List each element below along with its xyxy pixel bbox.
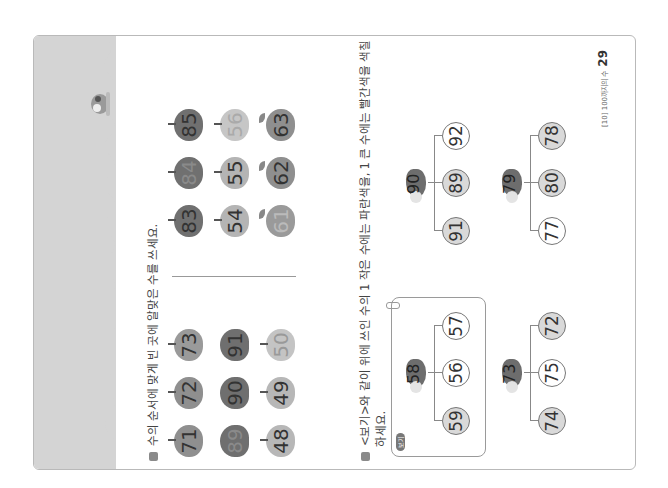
apple-cell: 50: [266, 329, 295, 361]
choice-circle[interactable]: 77: [538, 217, 566, 245]
apple-cell: 48: [266, 425, 295, 457]
choice-circle[interactable]: 74: [538, 407, 566, 435]
apple-cell: 85: [174, 109, 203, 141]
section2-instruction: <보기>와 같이 위에 쓰인 수의 1 작은 수에는 파란색을, 1 큰 수에는…: [356, 41, 372, 461]
choice-circle[interactable]: 91: [442, 217, 470, 245]
apple-cell: 49: [266, 377, 295, 409]
apple-cell: 72: [174, 377, 203, 409]
apple-cell: 71: [174, 425, 203, 457]
choice-circle[interactable]: 89: [442, 169, 470, 197]
apple-cell: 73: [174, 329, 203, 361]
section2-instruction-cont: 하세요.: [372, 411, 388, 447]
apple-cell: 63: [266, 109, 295, 141]
choice-circle[interactable]: 57: [442, 312, 470, 340]
page-number: 29: [596, 50, 610, 67]
bird-icon: 79: [500, 169, 524, 203]
apple-cell: 83: [174, 205, 203, 237]
bullet-icon: [361, 452, 370, 461]
example-badge: 보기: [396, 433, 405, 451]
choice-circle[interactable]: 72: [538, 312, 566, 340]
apple-cell: 89: [220, 425, 249, 457]
choice-circle[interactable]: 92: [442, 122, 470, 150]
apple-cell: 61: [266, 205, 295, 237]
choice-circle[interactable]: 59: [442, 407, 470, 435]
paperclip-icon: [386, 302, 400, 309]
apple-cell: 90: [220, 377, 249, 409]
bird-icon: 90: [404, 169, 428, 203]
bullet-icon: [149, 452, 158, 461]
choice-circle[interactable]: 80: [538, 169, 566, 197]
worksheet-page: 수의 순서에 맞게 빈 곳에 알맞은 수를 쓰세요. 71 72 73 89 9…: [33, 35, 636, 470]
apple-cell: 55: [220, 157, 249, 189]
mascot-icon: [86, 89, 112, 119]
page-footer: [10] 100까지의 수29: [596, 50, 610, 127]
apple-cell: 84: [174, 157, 203, 189]
group-divider: [172, 276, 296, 277]
choice-circle[interactable]: 56: [442, 359, 470, 387]
apple-cell: 54: [220, 205, 249, 237]
bird-icon: 58: [404, 359, 428, 393]
choice-circle[interactable]: 78: [538, 122, 566, 150]
apple-cell: 62: [266, 157, 295, 189]
apple-cell: 91: [220, 329, 249, 361]
section1-instruction: 수의 순서에 맞게 빈 곳에 알맞은 수를 쓰세요.: [144, 224, 160, 461]
choice-circle[interactable]: 75: [538, 359, 566, 387]
apple-cell: 56: [220, 109, 249, 141]
chapter-label: [10] 100까지의 수: [601, 71, 609, 127]
bird-icon: 73: [500, 359, 524, 393]
